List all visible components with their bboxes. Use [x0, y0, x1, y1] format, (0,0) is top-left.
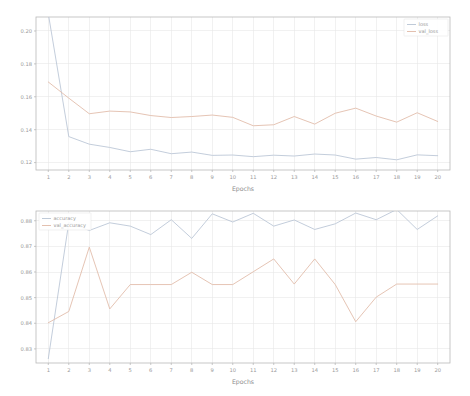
- x-axis-title: Epochs: [232, 378, 254, 386]
- x-tick-label: 2: [67, 174, 70, 180]
- x-tick-label: 17: [373, 174, 380, 180]
- y-tick-label: 0.16: [20, 94, 32, 100]
- y-tick-label: 0.86: [20, 269, 32, 275]
- series-line-loss: [48, 14, 437, 160]
- x-tick-label: 4: [108, 367, 112, 373]
- series-line-accuracy: [48, 209, 437, 358]
- y-tick-label: 0.14: [20, 127, 32, 133]
- x-tick-label: 17: [373, 367, 380, 373]
- x-tick-label: 19: [414, 367, 421, 373]
- x-tick-label: 1: [47, 174, 50, 180]
- accuracy-chart-panel: 0.830.840.850.860.870.881234567891011121…: [0, 198, 470, 396]
- x-tick-label: 5: [129, 174, 132, 180]
- legend-label-loss: loss: [419, 21, 429, 27]
- x-tick-label: 1: [47, 367, 50, 373]
- x-axis-title: Epochs: [232, 185, 254, 193]
- x-tick-label: 13: [291, 174, 298, 180]
- x-tick-label: 18: [393, 174, 400, 180]
- y-tick-label: 0.83: [20, 346, 32, 352]
- x-tick-label: 12: [270, 174, 277, 180]
- accuracy-chart-svg: 0.830.840.850.860.870.881234567891011121…: [0, 198, 470, 396]
- x-tick-label: 7: [170, 367, 173, 373]
- x-tick-label: 9: [211, 174, 214, 180]
- x-tick-label: 20: [434, 367, 441, 373]
- x-tick-label: 15: [332, 367, 339, 373]
- x-tick-label: 2: [67, 367, 70, 373]
- legend-label-val_accuracy: val_accuracy: [54, 222, 87, 229]
- x-tick-label: 6: [149, 174, 152, 180]
- x-tick-label: 7: [170, 174, 173, 180]
- x-tick-label: 3: [88, 367, 91, 373]
- x-tick-label: 14: [311, 174, 318, 180]
- x-tick-label: 10: [229, 174, 236, 180]
- x-tick-label: 19: [414, 174, 421, 180]
- x-tick-label: 15: [332, 174, 339, 180]
- x-tick-label: 13: [291, 367, 298, 373]
- loss-chart-svg: 0.120.140.160.180.2012345678910111213141…: [0, 0, 470, 198]
- x-tick-label: 20: [434, 174, 441, 180]
- legend-label-accuracy: accuracy: [54, 215, 77, 222]
- x-tick-label: 11: [250, 174, 257, 180]
- legend-label-val_loss: val_loss: [419, 28, 439, 35]
- y-tick-label: 0.87: [20, 243, 32, 249]
- x-tick-label: 8: [190, 174, 193, 180]
- x-tick-label: 5: [129, 367, 132, 373]
- series-line-val_accuracy: [48, 247, 437, 323]
- x-tick-label: 14: [311, 367, 318, 373]
- y-tick-label: 0.84: [20, 320, 32, 326]
- x-tick-label: 12: [270, 367, 277, 373]
- x-tick-label: 18: [393, 367, 400, 373]
- loss-chart-panel: 0.120.140.160.180.2012345678910111213141…: [0, 0, 470, 198]
- matplotlib-figure: 0.120.140.160.180.2012345678910111213141…: [0, 0, 470, 396]
- x-tick-label: 10: [229, 367, 236, 373]
- series-line-val_loss: [48, 82, 437, 126]
- x-tick-label: 16: [352, 174, 359, 180]
- y-tick-label: 0.18: [20, 61, 32, 67]
- x-tick-label: 16: [352, 367, 359, 373]
- y-tick-label: 0.12: [20, 159, 32, 165]
- x-tick-label: 3: [88, 174, 91, 180]
- x-tick-label: 11: [250, 367, 257, 373]
- x-tick-label: 4: [108, 174, 112, 180]
- y-tick-label: 0.88: [20, 218, 32, 224]
- x-tick-label: 6: [149, 367, 152, 373]
- y-tick-label: 0.20: [20, 28, 32, 34]
- x-tick-label: 9: [211, 367, 214, 373]
- x-tick-label: 8: [190, 367, 193, 373]
- y-tick-label: 0.85: [20, 295, 32, 301]
